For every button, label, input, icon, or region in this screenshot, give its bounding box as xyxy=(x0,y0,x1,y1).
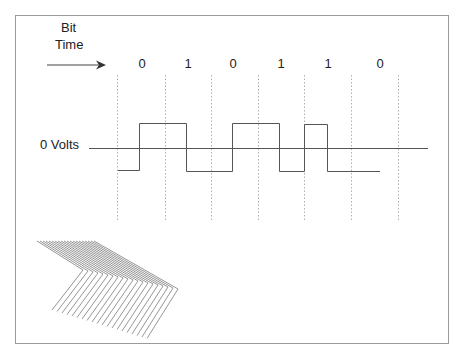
bit-time-arrow-icon xyxy=(47,61,106,70)
zero-volts-label: 0 Volts xyxy=(40,138,79,151)
chevron-pattern-icon xyxy=(37,241,178,339)
bit-value: 1 xyxy=(324,57,331,70)
time-label: Time xyxy=(55,38,83,51)
bit-value: 1 xyxy=(277,57,284,70)
signal-waveform xyxy=(118,124,380,172)
diagram-canvas xyxy=(0,0,465,355)
bit-value: 1 xyxy=(184,57,191,70)
bit-value: 0 xyxy=(229,57,236,70)
bit-value: 0 xyxy=(138,57,145,70)
bit-value: 0 xyxy=(376,57,383,70)
bit-label: Bit xyxy=(61,21,76,34)
